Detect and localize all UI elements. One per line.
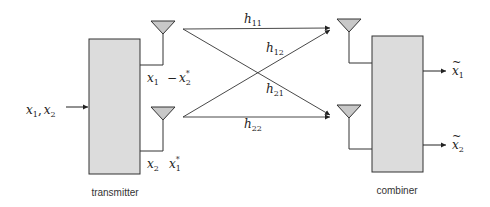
tx-antenna-1 bbox=[140, 21, 175, 65]
output-2: x2 ~ bbox=[423, 130, 464, 154]
antenna-icon bbox=[337, 19, 361, 32]
input-signal: x1,x2 bbox=[26, 103, 88, 119]
channel-h12 bbox=[183, 30, 330, 117]
channel-h11 bbox=[183, 28, 330, 29]
tx1-signals: x1−x*2 bbox=[147, 69, 191, 87]
output-1: x1 ~ bbox=[423, 56, 464, 80]
combiner-block bbox=[372, 36, 423, 172]
mimo-diagram: x1,x2 transmitter x1−x*2 x2x*1 h11 h12 h… bbox=[0, 0, 490, 207]
input-label: x1,x2 bbox=[26, 103, 56, 119]
transmitter-block bbox=[89, 39, 140, 174]
rx-antenna-1 bbox=[337, 19, 372, 63]
antenna-icon bbox=[151, 107, 175, 120]
transmitter-label: transmitter bbox=[91, 187, 139, 198]
tx2-signals: x2x*1 bbox=[147, 155, 181, 173]
antenna-icon bbox=[151, 21, 175, 34]
label-h12: h12 bbox=[266, 41, 284, 57]
label-h21: h21 bbox=[266, 82, 284, 98]
tx-antenna-2 bbox=[140, 107, 175, 151]
rx-antenna-2 bbox=[337, 105, 372, 149]
channel-paths bbox=[183, 28, 330, 117]
antenna-icon bbox=[337, 105, 361, 118]
tilde-accent: ~ bbox=[452, 130, 461, 143]
channel-h21 bbox=[183, 29, 330, 115]
label-h11: h11 bbox=[244, 12, 262, 28]
tilde-accent: ~ bbox=[452, 56, 461, 69]
combiner-label: combiner bbox=[376, 185, 418, 196]
label-h22: h22 bbox=[244, 117, 262, 133]
